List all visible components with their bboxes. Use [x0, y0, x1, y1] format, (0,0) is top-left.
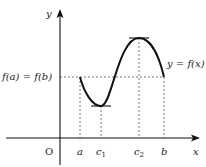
tick-label-a: a [77, 146, 83, 157]
tick-label-c2: c2 [134, 146, 144, 159]
function-curve [80, 38, 164, 106]
rolle-theorem-diagram: y x O f(a) = f(b) y = f(x) a c1 c2 b [0, 0, 206, 167]
x-axis-label: x [193, 146, 199, 157]
axes [6, 12, 198, 165]
origin-label: O [45, 146, 53, 157]
tick-label-b: b [161, 146, 167, 157]
level-label: f(a) = f(b) [1, 71, 52, 82]
tick-label-c1: c1 [96, 146, 106, 159]
y-axis-label: y [45, 8, 52, 19]
curve-label: y = f(x) [166, 58, 205, 69]
